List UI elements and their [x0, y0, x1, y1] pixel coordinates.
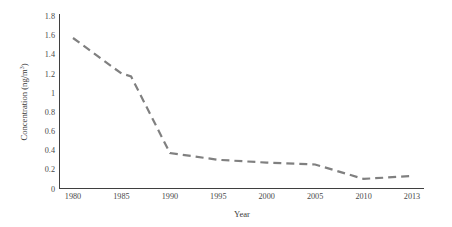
x-axis-title: Year [234, 209, 250, 219]
y-tick-label: 1.8 [45, 12, 55, 21]
y-tick-label: 1.6 [45, 31, 55, 40]
x-tick-label: 2005 [307, 192, 323, 201]
x-tick-label: 2000 [259, 192, 275, 201]
y-tick-label: 1.2 [45, 70, 55, 79]
x-axis-tick-labels: 19801985199019952000200520102013 [65, 192, 420, 201]
chart-container: Concentration (ng/m3) 00.20.40.60.811.21… [0, 0, 452, 227]
y-tick-label: 0.8 [45, 108, 55, 117]
y-tick-label: 1 [51, 89, 55, 98]
y-tick-label: 0.6 [45, 127, 55, 136]
x-tick-label: 1980 [65, 192, 81, 201]
x-tick-label: 2013 [404, 192, 420, 201]
y-tick-label: 0 [51, 185, 55, 194]
data-series-line [73, 38, 412, 179]
x-tick-label: 1990 [162, 192, 178, 201]
y-tick-label: 0.2 [45, 165, 55, 174]
x-tick-label: 1985 [113, 192, 129, 201]
line-chart: Concentration (ng/m3) 00.20.40.60.811.21… [0, 0, 452, 227]
y-tick-label: 0.4 [45, 146, 55, 155]
y-axis-title-base: Concentration (ng/m [19, 69, 29, 141]
y-axis-tick-labels: 00.20.40.60.811.21.41.61.8 [45, 12, 55, 194]
x-tick-label: 2010 [355, 192, 371, 201]
y-tick-label: 1.4 [45, 50, 55, 59]
y-axis-title-close: ) [19, 63, 29, 66]
x-tick-label: 1995 [210, 192, 226, 201]
y-axis-title: Concentration (ng/m3) [19, 63, 29, 140]
